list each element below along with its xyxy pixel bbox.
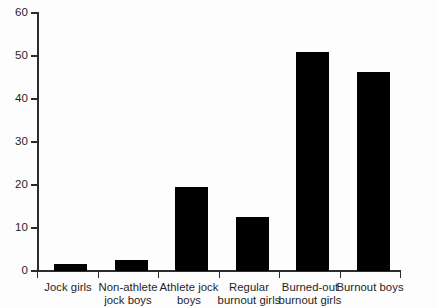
bar-regular-burnout-girls [236, 217, 269, 271]
x-separator-tick [219, 271, 220, 278]
x-category-label-line1: Burnout boys [336, 281, 403, 293]
x-separator-tick [158, 271, 159, 278]
y-tick-label-10: 10 [2, 222, 28, 234]
bar-athlete-jock-boys [175, 187, 208, 271]
bar-jock-girls [54, 264, 87, 271]
bar-chart: 60 50 40 30 20 10 0 Jock girls Non-athle… [0, 0, 438, 308]
y-tick-label-0: 0 [2, 265, 28, 277]
y-tick-label-30: 30 [2, 136, 28, 148]
x-category-label-line2: burnout girls [267, 294, 353, 307]
y-tick-label-50: 50 [2, 50, 28, 62]
x-category-label-burnout-boys: Burnout boys [327, 281, 413, 294]
y-tick-label-20: 20 [2, 179, 28, 191]
x-separator-tick [37, 271, 38, 278]
bar-burned-out-burnout-girls [296, 52, 329, 271]
x-separator-tick [340, 271, 341, 278]
x-category-label-line1: Regular [229, 281, 269, 293]
plot-area [38, 13, 400, 271]
x-separator-tick [279, 271, 280, 278]
y-tick-label-60: 60 [2, 7, 28, 19]
bar-burnout-boys [357, 72, 390, 271]
x-separator-tick [400, 271, 401, 278]
x-separator-tick [98, 271, 99, 278]
bar-non-athlete-jock-boys [115, 260, 148, 271]
y-tick-label-40: 40 [2, 93, 28, 105]
